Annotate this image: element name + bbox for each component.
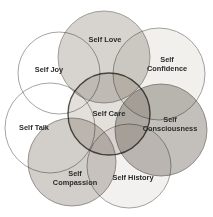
venn-label-line: Self	[160, 54, 174, 63]
venn-label-self-love: Self Love	[89, 35, 122, 44]
venn-label-self-history: Self History	[112, 173, 154, 182]
venn-label-line: Self Joy	[35, 65, 64, 74]
venn-label-line: Self Care	[93, 109, 126, 118]
center-label-group: Self Care	[93, 109, 126, 118]
venn-label-line: Confidence	[147, 63, 187, 72]
venn-label-self-talk: Self Talk	[19, 123, 50, 132]
venn-diagram-canvas: Self LoveSelfConfidenceSelfConsciousness…	[0, 0, 213, 217]
venn-label-line: Consciousness	[143, 123, 198, 132]
venn-label-line: Self Talk	[19, 123, 50, 132]
venn-label-self-joy: Self Joy	[35, 65, 64, 74]
venn-label-self-care: Self Care	[93, 109, 126, 118]
venn-label-line: Self Love	[89, 35, 122, 44]
self-care-venn-diagram: Self LoveSelfConfidenceSelfConsciousness…	[0, 0, 213, 217]
venn-label-line: Self	[68, 168, 82, 177]
venn-label-line: Compassion	[53, 177, 98, 186]
venn-label-line: Self	[163, 114, 177, 123]
venn-label-line: Self History	[112, 173, 154, 182]
